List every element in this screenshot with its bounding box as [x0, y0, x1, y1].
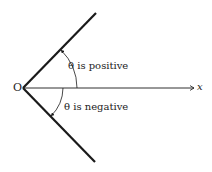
x-axis-label: x	[197, 81, 203, 92]
diagram-graphics	[0, 0, 212, 172]
positive-angle-label: θ is positive	[68, 60, 128, 71]
upper-ray	[23, 13, 96, 88]
negative-angle-arc	[51, 88, 63, 116]
origin-label: O	[13, 81, 22, 94]
angle-sign-diagram: O x θ is positive θ is negative	[0, 0, 212, 172]
negative-angle-label: θ is negative	[64, 101, 128, 112]
lower-ray	[23, 88, 95, 162]
